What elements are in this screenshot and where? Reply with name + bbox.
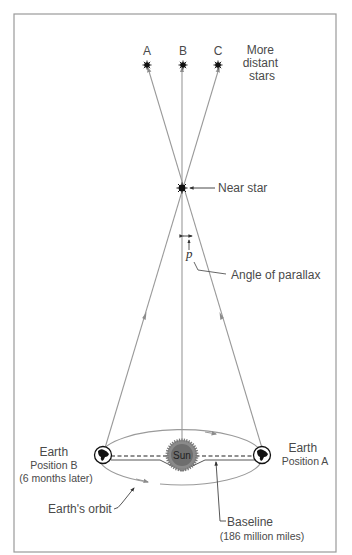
parallax-diagram: A B C More distant stars Near star p Ang…	[0, 0, 352, 555]
near-star: Near star	[177, 181, 268, 195]
near-star-icon	[177, 183, 188, 194]
earth-a-icon	[254, 447, 271, 464]
orbit-leader	[114, 488, 134, 509]
star-b-icon	[179, 61, 188, 70]
sight-lines	[105, 68, 262, 448]
baseline: Baseline (186 million miles)	[111, 456, 304, 542]
baseline-leader	[216, 462, 226, 521]
star-c-icon	[214, 61, 223, 70]
sight-line-arrows	[142, 312, 224, 320]
baseline-label: Baseline	[227, 515, 273, 529]
earth-position-b: Earth Position B (6 months later)	[19, 442, 111, 484]
star-a-label: A	[143, 44, 151, 58]
sun-label: Sun	[173, 450, 191, 461]
star-a-icon	[143, 61, 152, 70]
near-star-label: Near star	[218, 181, 267, 195]
sight-line-a-to-a	[148, 68, 262, 448]
earth-position-a: Earth Position A	[254, 438, 329, 467]
sun: Sun	[167, 440, 197, 470]
star-c-label: C	[214, 44, 223, 58]
parallax-angle: p Angle of parallax	[183, 236, 320, 282]
sight-line-b-to-c	[105, 68, 219, 448]
parallax-leader	[194, 262, 226, 274]
baseline-distance: (186 million miles)	[220, 530, 305, 542]
orbit-label: Earth's orbit	[48, 502, 112, 516]
distant-stars: A B C More distant stars	[143, 43, 282, 83]
parallax-symbol: p	[185, 246, 193, 261]
parallax-label: Angle of parallax	[231, 268, 320, 282]
orbit-label-group: Earth's orbit	[48, 488, 134, 516]
earth-b-icon	[95, 447, 112, 464]
earth-b-label: Earth Position B (6 months later)	[19, 442, 93, 484]
distant-stars-caption: More distant stars	[243, 43, 282, 83]
earth-a-label: Earth Position A	[282, 438, 329, 467]
star-b-label: B	[179, 44, 187, 58]
